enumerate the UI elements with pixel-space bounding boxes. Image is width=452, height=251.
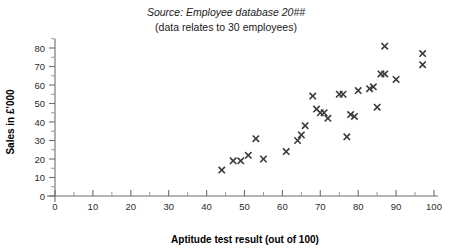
y-tick-label: 40: [34, 117, 45, 128]
x-tick-label: 20: [126, 201, 137, 212]
data-point: [419, 61, 425, 67]
data-point: [393, 76, 399, 82]
y-tick-label: 80: [34, 43, 45, 54]
y-tick-label: 50: [34, 98, 45, 109]
x-tick-label: 100: [426, 201, 442, 212]
data-point: [238, 158, 244, 164]
data-point: [325, 115, 331, 121]
x-tick-label: 60: [277, 201, 288, 212]
x-tick-label: 70: [315, 201, 326, 212]
data-point: [382, 43, 388, 49]
data-point: [245, 152, 251, 158]
y-tick-label: 30: [34, 135, 45, 146]
x-axis-title: Aptitude test result (out of 100): [171, 234, 319, 245]
y-tick-label: 70: [34, 61, 45, 72]
x-tick-label: 90: [391, 201, 402, 212]
data-point: [419, 50, 425, 56]
data-point: [253, 135, 259, 141]
data-point: [374, 104, 380, 110]
x-axis: 0102030405060708090100: [47, 190, 442, 212]
y-axis-title: Sales in £'000: [5, 89, 16, 155]
y-tick-label: 0: [40, 191, 45, 202]
data-point: [355, 87, 361, 93]
data-points: [219, 43, 426, 173]
data-point: [310, 93, 316, 99]
x-tick-label: 0: [52, 201, 57, 212]
data-point: [321, 110, 327, 116]
y-tick-label: 20: [34, 154, 45, 165]
plot-area: 01020304050607080 0102030405060708090100…: [0, 0, 452, 251]
x-tick-label: 50: [239, 201, 250, 212]
data-point: [302, 123, 308, 129]
data-point: [344, 134, 350, 140]
x-tick-label: 40: [201, 201, 212, 212]
x-tick-label: 80: [353, 201, 364, 212]
data-point: [298, 132, 304, 138]
x-tick-label: 10: [88, 201, 99, 212]
data-point: [219, 167, 225, 173]
data-point: [260, 156, 266, 162]
x-tick-label: 30: [163, 201, 174, 212]
data-point: [340, 91, 346, 97]
scatter-chart: Source: Employee database 20## (data rel…: [0, 0, 452, 251]
data-point: [230, 158, 236, 164]
data-point: [382, 71, 388, 77]
y-tick-label: 10: [34, 172, 45, 183]
data-point: [294, 137, 300, 143]
y-axis: 01020304050607080: [34, 39, 55, 202]
y-tick-label: 60: [34, 80, 45, 91]
data-point: [283, 148, 289, 154]
